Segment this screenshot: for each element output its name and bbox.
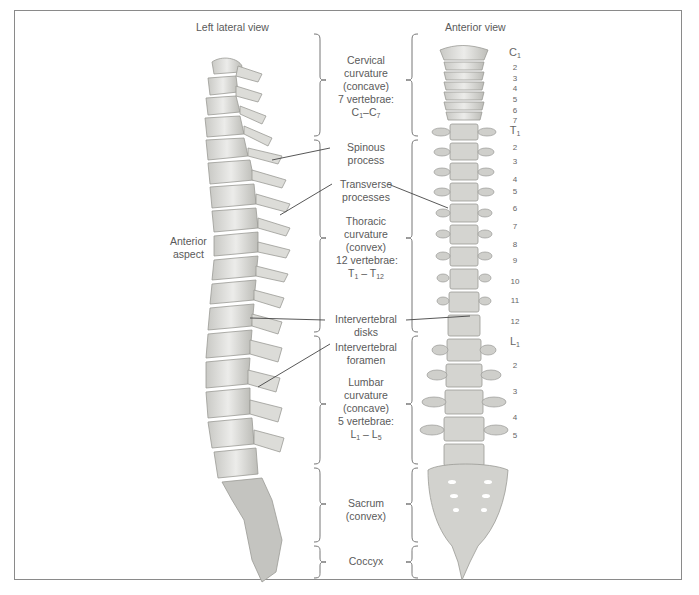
level-t11: 11 bbox=[505, 296, 525, 305]
lumbar-curvature-label: Lumbar curvature (concave) 5 vertebrae: … bbox=[336, 376, 396, 444]
level-l1: L1 bbox=[505, 335, 525, 348]
level-c4: 4 bbox=[505, 84, 525, 93]
level-c1: C1 bbox=[505, 46, 525, 59]
level-t7: 7 bbox=[505, 222, 525, 231]
level-t10: 10 bbox=[505, 277, 525, 286]
level-t12: 12 bbox=[505, 317, 525, 326]
level-t6: 6 bbox=[505, 204, 525, 213]
level-t8: 8 bbox=[505, 240, 525, 249]
anterior-sacrum bbox=[428, 464, 508, 580]
level-l4: 4 bbox=[505, 413, 525, 422]
spinous-process-label: Spinousprocess bbox=[336, 141, 396, 167]
intervertebral-foramen-label: Intervertebralforamen bbox=[326, 341, 406, 367]
cervical-curvature-label: Cervical curvature (concave) 7 vertebrae… bbox=[336, 54, 396, 122]
level-t5: 5 bbox=[505, 187, 525, 196]
level-c3: 3 bbox=[505, 74, 525, 83]
level-t2: 2 bbox=[505, 143, 525, 152]
sacrum-label: Sacrum(convex) bbox=[336, 497, 396, 523]
level-c2: 2 bbox=[505, 63, 525, 72]
level-t1: T1 bbox=[505, 124, 525, 137]
level-l3: 3 bbox=[505, 387, 525, 396]
left-braces bbox=[314, 34, 326, 578]
right-braces bbox=[406, 34, 418, 578]
level-t9: 9 bbox=[505, 256, 525, 265]
intervertebral-disks-label: Intervertebraldisks bbox=[326, 313, 406, 339]
level-l5: 5 bbox=[505, 431, 525, 440]
level-c6: 6 bbox=[505, 106, 525, 115]
level-t3: 3 bbox=[505, 157, 525, 166]
coccyx-label: Coccyx bbox=[336, 555, 396, 568]
level-c5: 5 bbox=[505, 95, 525, 104]
level-l2: 2 bbox=[505, 361, 525, 370]
thoracic-curvature-label: Thoracic curvature (convex) 12 vertebrae… bbox=[336, 215, 396, 283]
transverse-processes-label: Transverseprocesses bbox=[331, 178, 401, 204]
level-t4: 4 bbox=[505, 175, 525, 184]
anterior-spine bbox=[440, 46, 488, 121]
anterior-thoracic-lumbar bbox=[444, 124, 484, 466]
